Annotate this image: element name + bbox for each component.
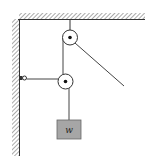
wall-anchor — [20, 76, 27, 80]
block-label: w — [65, 125, 73, 135]
pulley-diagram: w — [0, 0, 150, 165]
diagonal-rope — [75, 43, 124, 86]
top-pulley — [63, 30, 78, 45]
lower-pulley — [58, 74, 73, 89]
left-wall — [12, 19, 20, 156]
weight-block: w — [57, 120, 81, 139]
ceiling — [18, 13, 145, 20]
